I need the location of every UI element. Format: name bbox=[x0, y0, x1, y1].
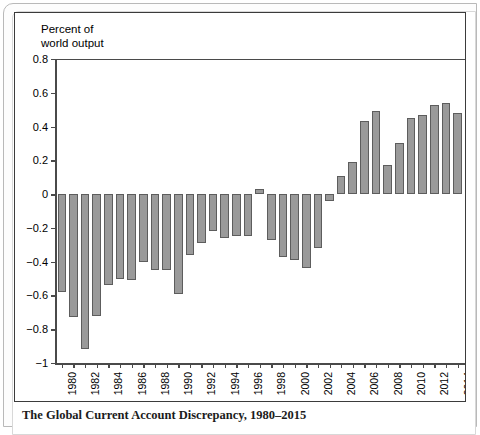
x-tick-label: 1982 bbox=[89, 372, 101, 395]
bar bbox=[104, 194, 113, 285]
y-tick-label: −0.4 bbox=[26, 256, 48, 268]
x-tick-label: 1992 bbox=[205, 372, 217, 395]
x-tick bbox=[73, 363, 74, 368]
bar bbox=[314, 194, 323, 248]
x-tick-label: 2000 bbox=[299, 372, 311, 395]
y-tick bbox=[51, 262, 56, 263]
bar bbox=[430, 105, 439, 195]
bar bbox=[383, 165, 392, 194]
x-tick bbox=[423, 363, 424, 368]
bar bbox=[127, 194, 136, 280]
chart-panel: Percent of world output 0.80.60.40.20−0.… bbox=[14, 12, 466, 402]
x-tick bbox=[353, 363, 354, 368]
bar bbox=[255, 189, 264, 194]
y-tick bbox=[51, 228, 56, 229]
x-tick-label: 1996 bbox=[252, 372, 264, 395]
y-tick bbox=[51, 59, 56, 60]
x-tick bbox=[306, 363, 307, 368]
bar bbox=[267, 194, 276, 240]
bar bbox=[139, 194, 148, 262]
x-tick bbox=[446, 363, 447, 368]
bar bbox=[92, 194, 101, 316]
x-tick-label: 2014 bbox=[462, 372, 466, 395]
x-tick bbox=[236, 363, 237, 368]
bar bbox=[407, 118, 416, 194]
y-tick bbox=[51, 93, 56, 94]
x-tick bbox=[201, 363, 202, 368]
x-tick bbox=[178, 363, 179, 368]
x-tick-label: 1988 bbox=[159, 372, 171, 395]
x-tick-label: 2002 bbox=[322, 372, 334, 395]
y-tick-label: −0.8 bbox=[26, 323, 48, 335]
bar bbox=[442, 103, 451, 194]
x-tick-label: 1990 bbox=[182, 372, 194, 395]
x-tick-label: 1998 bbox=[275, 372, 287, 395]
bar bbox=[174, 194, 183, 294]
bar bbox=[395, 143, 404, 194]
y-tick-label: −0.2 bbox=[26, 222, 48, 234]
x-tick bbox=[376, 363, 377, 368]
y-tick bbox=[51, 295, 56, 296]
x-tick bbox=[434, 363, 435, 368]
x-tick bbox=[97, 363, 98, 368]
bar bbox=[151, 194, 160, 270]
bar bbox=[279, 194, 288, 256]
bar bbox=[337, 176, 346, 195]
bar bbox=[162, 194, 171, 270]
bar bbox=[465, 140, 466, 194]
x-tick bbox=[248, 363, 249, 368]
y-tick-label: 0.6 bbox=[33, 87, 48, 99]
x-tick-label: 2010 bbox=[415, 372, 427, 395]
bar bbox=[69, 194, 78, 317]
y-axis-line bbox=[55, 59, 57, 363]
x-tick-label: 2008 bbox=[392, 372, 404, 395]
y-tick-label: 0.4 bbox=[33, 121, 48, 133]
x-tick bbox=[271, 363, 272, 368]
y-axis-title: Percent of world output bbox=[41, 23, 104, 50]
x-tick bbox=[341, 363, 342, 368]
bar bbox=[197, 194, 206, 243]
bar bbox=[348, 162, 357, 194]
x-tick-label: 1994 bbox=[229, 372, 241, 395]
x-tick bbox=[411, 363, 412, 368]
bar bbox=[418, 115, 427, 194]
zero-baseline bbox=[55, 59, 466, 60]
y-tick-label: 0.8 bbox=[33, 53, 48, 65]
x-tick-label: 1986 bbox=[136, 372, 148, 395]
bar bbox=[372, 111, 381, 194]
x-tick bbox=[364, 363, 365, 368]
x-tick bbox=[155, 363, 156, 368]
x-tick-label: 1984 bbox=[112, 372, 124, 395]
x-tick bbox=[167, 363, 168, 368]
bar bbox=[360, 121, 369, 194]
x-tick bbox=[295, 363, 296, 368]
y-tick-label: 0 bbox=[42, 188, 48, 200]
y-tick bbox=[51, 160, 56, 161]
x-tick bbox=[283, 363, 284, 368]
x-tick bbox=[143, 363, 144, 368]
bar bbox=[209, 194, 218, 231]
x-tick bbox=[225, 363, 226, 368]
x-tick bbox=[330, 363, 331, 368]
x-tick-label: 2004 bbox=[345, 372, 357, 395]
x-tick bbox=[120, 363, 121, 368]
bar bbox=[220, 194, 229, 238]
y-tick bbox=[51, 194, 56, 195]
x-tick bbox=[190, 363, 191, 368]
x-tick-label: 2006 bbox=[368, 372, 380, 395]
bar bbox=[290, 194, 299, 260]
x-tick-label: 2012 bbox=[438, 372, 450, 395]
x-tick bbox=[458, 363, 459, 368]
bar bbox=[58, 194, 67, 292]
x-tick bbox=[318, 363, 319, 368]
bar bbox=[302, 194, 311, 268]
bar bbox=[186, 194, 195, 255]
bar bbox=[453, 113, 462, 194]
figure-caption: The Global Current Account Discrepancy, … bbox=[22, 408, 306, 423]
y-tick-label: 0.2 bbox=[33, 154, 48, 166]
bar bbox=[116, 194, 125, 278]
bar bbox=[244, 194, 253, 236]
x-tick bbox=[132, 363, 133, 368]
x-tick-label: 1980 bbox=[66, 372, 78, 395]
x-tick bbox=[85, 363, 86, 368]
